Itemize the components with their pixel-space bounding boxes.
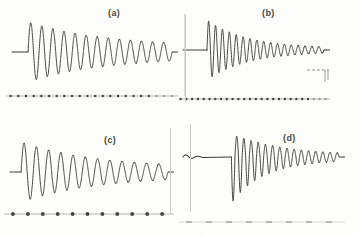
panel-c-label: (c) <box>104 135 116 145</box>
trace-d <box>179 112 358 235</box>
panel-a: (a) <box>0 0 179 112</box>
divider-vertical-d-left <box>190 124 191 212</box>
panel-a-label: (a) <box>108 8 120 18</box>
divider-vertical-bottom <box>170 128 171 214</box>
panel-b: (b) <box>179 0 358 112</box>
panel-d-label: (d) <box>283 133 296 143</box>
trace-c <box>0 112 179 235</box>
divider-vertical-top <box>185 14 186 102</box>
panel-d: (d) <box>179 112 358 235</box>
panel-c: (c) <box>0 112 179 235</box>
figure-oscilloscope-traces: (a) (b) (c) (d) <box>0 0 358 235</box>
trace-a <box>0 0 179 112</box>
panel-b-label: (b) <box>262 8 275 18</box>
